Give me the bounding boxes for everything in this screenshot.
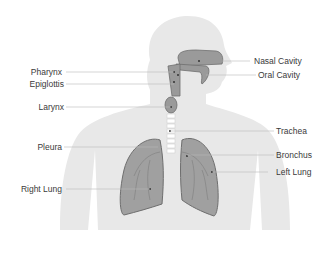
label-bronchus: Bronchus [276, 150, 312, 160]
label-oral-cavity: Oral Cavity [258, 70, 300, 80]
label-pharynx: Pharynx [31, 67, 62, 77]
label-trachea: Trachea [276, 126, 307, 136]
label-larynx: Larynx [38, 102, 64, 112]
larynx-shape [165, 97, 177, 113]
nasal-cavity-shape [178, 50, 223, 66]
label-right-lung: Right Lung [21, 184, 62, 194]
label-epiglottis: Epiglottis [30, 79, 65, 89]
label-pleura: Pleura [37, 142, 62, 152]
label-left-lung: Left Lung [276, 167, 311, 177]
label-nasal-cavity: Nasal Cavity [254, 56, 302, 66]
